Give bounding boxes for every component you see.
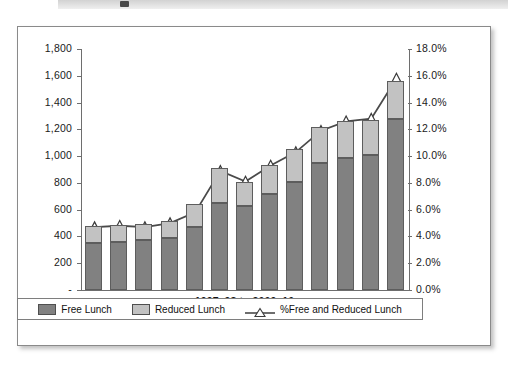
y-axis-right-tick: [408, 76, 412, 77]
bar-group: [337, 49, 354, 290]
bar-segment-free-lunch: [311, 163, 328, 290]
bar-segment-reduced-lunch: [135, 224, 152, 240]
y-axis-left-tick: [77, 236, 81, 237]
y-axis-left-tick-label: 1,200: [28, 122, 72, 134]
legend-label-free-lunch: Free Lunch: [61, 304, 112, 315]
y-axis-right-tick: [408, 103, 412, 104]
y-axis-right-tick-label: 10.0%: [416, 149, 464, 161]
bar-group: [387, 49, 404, 290]
y-axis-right-tick: [408, 183, 412, 184]
y-axis-left-tick: [77, 263, 81, 264]
bar-group: [211, 49, 228, 290]
bar-segment-free-lunch: [387, 119, 404, 290]
bar-segment-free-lunch: [286, 182, 303, 290]
y-axis-right-tick-label: 12.0%: [416, 122, 464, 134]
bar-group: [362, 49, 379, 290]
y-axis-right-tick-label: 6.0%: [416, 203, 464, 215]
y-axis-left-tick: [77, 290, 81, 291]
bar-group: [186, 49, 203, 290]
y-axis-right-tick-label: 18.0%: [416, 42, 464, 54]
bar-group: [135, 49, 152, 290]
y-axis-left-tick-label: 800: [28, 176, 72, 188]
legend-item-free-lunch: Free Lunch: [38, 304, 112, 315]
bar-segment-reduced-lunch: [85, 226, 102, 243]
bar-group: [236, 49, 253, 290]
legend-label-percent-line: %Free and Reduced Lunch: [280, 304, 402, 315]
bar-group: [311, 49, 328, 290]
bar-segment-reduced-lunch: [286, 149, 303, 181]
y-axis-right-tick-label: 4.0%: [416, 229, 464, 241]
y-axis-left-tick-label: 1,000: [28, 149, 72, 161]
bar-segment-reduced-lunch: [337, 121, 354, 158]
y-axis-left-tick: [77, 76, 81, 77]
y-axis-left-tick: [77, 129, 81, 130]
bar-group: [286, 49, 303, 290]
legend-label-reduced-lunch: Reduced Lunch: [155, 304, 225, 315]
bar-segment-free-lunch: [186, 227, 203, 290]
bar-group: [261, 49, 278, 290]
bar-segment-reduced-lunch: [211, 168, 228, 203]
y-axis-left-tick: [77, 103, 81, 104]
y-axis-left-tick: [77, 49, 81, 50]
y-axis-right-tick-label: 16.0%: [416, 69, 464, 81]
free-lunch-swatch-icon: [38, 304, 56, 315]
bar-segment-free-lunch: [135, 240, 152, 290]
y-axis-left-tick-label: 600: [28, 203, 72, 215]
legend-item-percent-line: %Free and Reduced Lunch: [245, 304, 402, 315]
y-axis-right-tick: [408, 236, 412, 237]
bar-segment-free-lunch: [337, 158, 354, 290]
bar-segment-free-lunch: [362, 155, 379, 290]
bar-segment-reduced-lunch: [236, 182, 253, 207]
bar-group: [85, 49, 102, 290]
y-axis-right-tick-label: 0.0%: [416, 283, 464, 295]
bar-segment-free-lunch: [110, 242, 127, 290]
legend-item-reduced-lunch: Reduced Lunch: [132, 304, 225, 315]
y-axis-right-tick-label: 8.0%: [416, 176, 464, 188]
y-axis-left-tick-label: 200: [28, 256, 72, 268]
reduced-lunch-swatch-icon: [132, 304, 150, 315]
y-axis-left-tick-label: 1,800: [28, 42, 72, 54]
bar-segment-reduced-lunch: [161, 221, 178, 238]
bar-group: [110, 49, 127, 290]
y-axis-left-tick: [77, 156, 81, 157]
bar-segment-reduced-lunch: [110, 225, 127, 242]
chart-legend: Free Lunch Reduced Lunch %Free and Reduc…: [17, 298, 423, 320]
bar-segment-free-lunch: [211, 203, 228, 290]
bar-segment-free-lunch: [236, 206, 253, 290]
y-axis-left-tick-label: 400: [28, 229, 72, 241]
bar-segment-reduced-lunch: [387, 81, 404, 119]
bar-segment-reduced-lunch: [311, 127, 328, 162]
y-axis-right-tick: [408, 156, 412, 157]
bar-segment-free-lunch: [261, 194, 278, 290]
bar-segment-reduced-lunch: [186, 204, 203, 227]
y-axis-left-tick: [77, 210, 81, 211]
bar-segment-free-lunch: [161, 238, 178, 290]
header-band-marker: [120, 1, 129, 7]
bar-group: [161, 49, 178, 290]
y-axis-right-tick-label: 2.0%: [416, 256, 464, 268]
y-axis-left-tick-label: -: [28, 283, 72, 295]
y-axis-left-tick-label: 1,600: [28, 69, 72, 81]
y-axis-right-tick: [408, 210, 412, 211]
y-axis-right-tick: [408, 129, 412, 130]
bar-segment-free-lunch: [85, 243, 102, 290]
bar-segment-reduced-lunch: [261, 165, 278, 194]
y-axis-left-tick-label: 1,400: [28, 96, 72, 108]
figure-header-band: [58, 0, 508, 9]
bar-segment-reduced-lunch: [362, 120, 379, 155]
y-axis-right-tick-label: 14.0%: [416, 96, 464, 108]
y-axis-right-tick: [408, 263, 412, 264]
y-axis-right-tick: [408, 49, 412, 50]
percent-line-marker-icon: [245, 304, 275, 315]
y-axis-right-tick: [408, 290, 412, 291]
y-axis-left-tick: [77, 183, 81, 184]
